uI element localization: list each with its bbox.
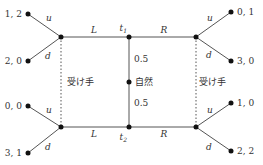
payoff-top-right-d: 3, 0 [237,56,254,66]
sender-label-t1: t1 [120,23,127,34]
leaf-bottom-left-d [26,151,31,156]
nature-label: 自然 [135,76,153,87]
edge-top-left-u [28,14,61,37]
sender-label-t2: t2 [120,132,128,143]
node-nature [127,80,132,85]
edge-bottom-left-u [28,106,61,127]
info-set-label-right: 受け手 [199,76,226,87]
action-label-bottom-right-d: d [206,142,212,152]
payoff-top-left-d: 2, 0 [5,56,22,66]
node-sender-t1 [127,35,132,40]
leaf-top-left-u [26,12,31,17]
action-label-top-right-d: d [206,50,212,60]
payoff-top-right-u: 0, 1 [237,7,254,17]
node-receiver-top-right [194,35,199,40]
nature-prob-top: 0.5 [134,54,149,64]
action-label-bottom-R: R [160,129,168,139]
leaf-top-right-d [229,59,234,64]
payoff-bottom-right-u: 1, 0 [237,98,254,108]
action-label-bottom-right-u: u [207,105,213,115]
action-label-bottom-left-d: d [45,142,51,152]
payoff-top-left-u: 1, 2 [5,9,22,19]
leaf-bottom-right-u [229,101,234,106]
node-receiver-top-left [59,35,64,40]
action-label-top-left-d: d [45,51,51,61]
node-receiver-bottom-left [59,125,64,130]
leaf-bottom-left-u [26,104,31,109]
edge-bottom-right-d [196,127,231,151]
leaf-top-right-u [229,10,234,15]
action-label-top-R: R [160,25,168,35]
node-sender-t2 [127,125,132,130]
leaf-top-left-d [26,59,31,64]
action-label-top-right-u: u [207,13,213,23]
action-label-bottom-left-u: u [46,105,52,115]
action-label-bottom-L: L [90,129,97,139]
action-label-top-left-u: u [46,13,52,23]
nature-prob-bottom: 0.5 [134,98,149,108]
payoff-bottom-left-d: 3, 1 [5,148,22,158]
node-receiver-bottom-right [194,125,199,130]
payoff-bottom-left-u: 0, 0 [5,101,22,111]
edge-bottom-right-u [196,103,231,127]
edge-top-right-u [196,12,231,37]
game-tree-diagram: 1, 2 2, 0 0, 1 3, 0 0, 0 3, 1 1, 0 2, 2 … [0,0,263,165]
info-set-label-left: 受け手 [67,76,94,87]
action-label-top-L: L [90,25,97,35]
edge-top-right-d [196,37,231,61]
leaf-bottom-right-d [229,149,234,154]
payoff-bottom-right-d: 2, 2 [237,146,254,156]
